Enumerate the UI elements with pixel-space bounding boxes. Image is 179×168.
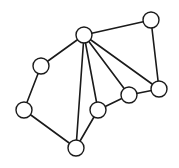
edge-B-H bbox=[151, 20, 159, 89]
edge-A-H bbox=[84, 35, 159, 89]
node-B bbox=[143, 12, 159, 28]
node-A bbox=[76, 27, 92, 43]
node-D bbox=[16, 102, 32, 118]
graph-diagram bbox=[0, 0, 179, 168]
edge-D-E bbox=[24, 110, 76, 148]
node-H bbox=[151, 81, 167, 97]
edge-A-F bbox=[84, 35, 98, 110]
edge-A-E bbox=[76, 35, 84, 148]
edge-A-B bbox=[84, 20, 151, 35]
nodes-group bbox=[16, 12, 167, 156]
edge-A-G bbox=[84, 35, 129, 95]
node-G bbox=[121, 87, 137, 103]
node-C bbox=[33, 58, 49, 74]
node-F bbox=[90, 102, 106, 118]
node-E bbox=[68, 140, 84, 156]
